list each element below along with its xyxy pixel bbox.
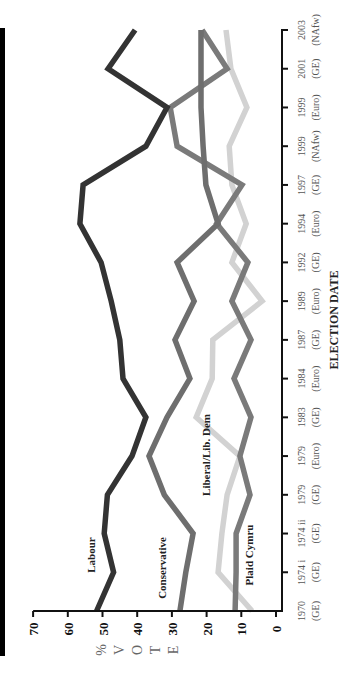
series-line-labour	[80, 30, 167, 611]
category-year-label: 1974 i	[296, 559, 307, 585]
y-axis-title-letter: E	[166, 646, 181, 655]
category-year-label: 2001	[296, 59, 307, 79]
value-tick-label: 20	[200, 623, 215, 636]
category-type-label: (GE)	[310, 175, 322, 195]
series-line-liberal-lib-dem	[196, 30, 262, 611]
category-year-label: 1992	[296, 252, 307, 272]
chart: 010203040506070%VOTE1970(GE)1974 i(GE)19…	[0, 0, 346, 678]
value-tick-label: 10	[234, 623, 249, 636]
category-year-label: 1994	[296, 214, 307, 234]
y-axis-title-letter: O	[130, 645, 145, 655]
y-axis-title-letter: %	[94, 644, 109, 656]
series-label: Liberal/Lib. Dem	[200, 414, 212, 496]
category-type-label: (NAfw)	[310, 14, 322, 46]
value-tick-label: 50	[96, 623, 111, 636]
series-labels: LabourConservativeLiberal/Lib. DemPlaid …	[85, 414, 255, 599]
category-year-label: 1970	[296, 601, 307, 621]
value-tick-label: 70	[26, 623, 41, 636]
category-type-label: (Euro)	[310, 366, 322, 392]
x-axis-title-text: ELECTION DATE	[327, 271, 341, 370]
series-layer	[80, 30, 262, 611]
left-border-bar	[0, 28, 5, 656]
category-type-label: (Euro)	[310, 288, 322, 314]
category-year-label: 1983	[296, 407, 307, 427]
category-type-label: (GE)	[310, 601, 322, 621]
category-type-label: (Euro)	[310, 211, 322, 237]
value-tick-label: 40	[130, 623, 145, 636]
series-label: Conservative	[156, 537, 168, 599]
value-tick-label: 30	[165, 623, 180, 636]
category-year-label: 1979	[296, 485, 307, 505]
category-type-label: (GE)	[310, 524, 322, 544]
line-chart: 010203040506070%VOTE1970(GE)1974 i(GE)19…	[0, 0, 346, 678]
series-label: Labour	[85, 537, 97, 573]
y-axis-title-letter: V	[112, 645, 127, 655]
category-year-label: 2003	[296, 20, 307, 40]
category-type-label: (Euro)	[310, 94, 322, 120]
y-axis-title-letter: T	[148, 645, 163, 654]
category-year-label: 1987	[296, 330, 307, 350]
value-tick-label: 0	[269, 626, 284, 633]
category-type-label: (GE)	[310, 59, 322, 79]
category-type-label: (GE)	[310, 485, 322, 505]
category-year-label: 1999	[296, 97, 307, 117]
category-year-label: 1999	[296, 136, 307, 156]
value-tick-label: 60	[61, 623, 76, 636]
category-year-label: 1979	[296, 446, 307, 466]
category-type-label: (GE)	[310, 562, 322, 582]
category-year-label: 1984	[296, 369, 307, 389]
category-type-label: (GE)	[310, 407, 322, 427]
category-type-label: (GE)	[310, 330, 322, 350]
category-type-label: (NAfw)	[310, 130, 322, 162]
series-label: Plaid Cymru	[243, 525, 255, 586]
category-type-label: (Euro)	[310, 443, 322, 469]
category-year-label: 1974 ii	[296, 519, 307, 547]
axes: 010203040506070%VOTE1970(GE)1974 i(GE)19…	[26, 14, 341, 656]
category-year-label: 1989	[296, 291, 307, 311]
category-type-label: (GE)	[310, 252, 322, 272]
category-year-label: 1997	[296, 175, 307, 195]
